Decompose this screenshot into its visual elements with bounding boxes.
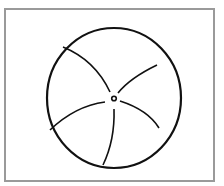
center-ring (112, 96, 117, 101)
spoke-bottom (103, 109, 114, 165)
spoke-left (50, 102, 105, 130)
spoke-upper-left (63, 47, 110, 92)
spoke-upper-right (118, 65, 157, 93)
pinwheel-circle-diagram (0, 0, 224, 186)
spoke-right (120, 101, 159, 128)
